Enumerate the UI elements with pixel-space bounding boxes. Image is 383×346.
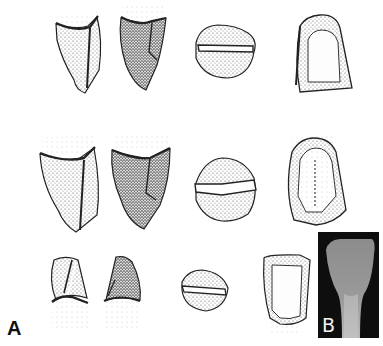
row-3 — [51, 255, 310, 336]
row2-mesial-view — [40, 136, 98, 232]
row1-distal-view — [120, 3, 166, 90]
row1-incisal-view — [196, 25, 255, 78]
dental-figure: A B — [0, 0, 383, 346]
row2-lingual-view — [288, 136, 346, 225]
xray-panel-b: B — [318, 232, 379, 338]
row3-incisal-view — [182, 270, 228, 311]
row3-mesial-view — [51, 257, 90, 330]
row-1 — [56, 3, 352, 93]
row1-lingual-view — [296, 14, 352, 92]
row-2 — [40, 135, 346, 232]
row3-labial-view — [264, 255, 310, 336]
row3-distal-view — [104, 257, 141, 330]
row1-mesial-view — [56, 12, 101, 93]
row2-incisal-view — [195, 158, 256, 221]
row2-distal-view — [112, 135, 170, 229]
panel-label-a: A — [7, 318, 21, 338]
panel-label-b: B — [322, 316, 335, 335]
